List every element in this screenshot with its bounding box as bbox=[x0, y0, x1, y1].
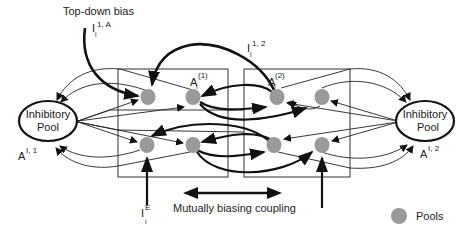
inhibitory-pool-right-label2: Pool bbox=[417, 121, 439, 133]
input-top-label: I i 1, A bbox=[92, 20, 111, 38]
inhibitory-pool-right: Inhibitory Pool bbox=[396, 101, 454, 141]
module-2-pools bbox=[267, 89, 330, 153]
top-down-bias-label: Top-down bias bbox=[63, 5, 134, 17]
inhibitory-pool-left-label: Inhibitory bbox=[26, 108, 71, 120]
input-external-label: I i E bbox=[141, 203, 150, 225]
pool bbox=[186, 137, 201, 153]
inhibitory-pool-right-label: Inhibitory bbox=[403, 108, 448, 120]
svg-text:i: i bbox=[196, 83, 198, 90]
svg-text:E: E bbox=[145, 203, 150, 212]
pool bbox=[267, 137, 282, 153]
module-1-activity-label: A i (1) bbox=[190, 71, 208, 90]
svg-text:I: I bbox=[141, 207, 144, 219]
pool bbox=[186, 89, 201, 105]
inhibitory-pool-left-label2: Pool bbox=[37, 121, 59, 133]
svg-text:I, 2: I, 2 bbox=[428, 144, 440, 153]
inhibitory-pool-left: Inhibitory Pool bbox=[19, 101, 77, 141]
svg-text:i: i bbox=[95, 31, 97, 38]
module-1-pools bbox=[140, 89, 201, 153]
right-inhibitory-inputs bbox=[278, 69, 413, 169]
right-inhibitory-outputs bbox=[284, 101, 398, 141]
legend-pool-swatch bbox=[391, 208, 407, 224]
pool bbox=[270, 89, 285, 105]
network-diagram: Inhibitory Pool Inhibitory Pool Top-down… bbox=[0, 0, 463, 238]
inhibitory-right-activity-label: A I, 2 bbox=[420, 144, 440, 160]
svg-text:A: A bbox=[18, 150, 26, 162]
diagram-canvas: Inhibitory Pool Inhibitory Pool Top-down… bbox=[0, 0, 463, 238]
inhibitory-left-activity-label: A I, 1 bbox=[18, 146, 38, 162]
svg-text:i: i bbox=[145, 218, 147, 225]
input-cross-label: I i 1, 2 bbox=[247, 39, 266, 58]
svg-text:i: i bbox=[250, 51, 252, 58]
svg-text:i: i bbox=[274, 83, 276, 90]
svg-text:I, 1: I, 1 bbox=[26, 146, 38, 155]
legend: Pools bbox=[391, 208, 444, 224]
svg-text:1, 2: 1, 2 bbox=[252, 39, 266, 48]
pool bbox=[315, 137, 330, 153]
pool bbox=[315, 89, 330, 105]
coupling-double-arrow bbox=[183, 187, 282, 199]
pool bbox=[140, 137, 155, 153]
coupling-label: Mutually biasing coupling bbox=[173, 202, 296, 214]
svg-text:A: A bbox=[420, 148, 428, 160]
pool bbox=[141, 89, 156, 105]
svg-text:1, A: 1, A bbox=[97, 20, 111, 29]
legend-pools-label: Pools bbox=[416, 210, 444, 222]
svg-text:(1): (1) bbox=[198, 71, 208, 80]
svg-text:(2): (2) bbox=[275, 71, 285, 80]
